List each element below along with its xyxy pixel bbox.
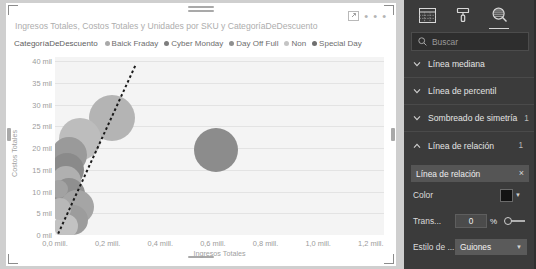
legend-title: CategoríaDeDescuento — [14, 39, 98, 48]
transparency-property-row: Trans... 0 % — [404, 208, 536, 234]
chevron-down-icon[interactable]: ▼ — [516, 244, 522, 250]
y-axis-ticks: 0 mil5 mil10 mil15 mil20 mil25 mil30 mil… — [22, 53, 52, 235]
legend-swatch-icon — [229, 41, 234, 46]
section-linea-de-percentil[interactable]: Línea de percentil — [404, 78, 536, 105]
legend-item-1[interactable]: Cyber Monday — [164, 39, 223, 48]
search-input[interactable]: Buscar — [411, 32, 529, 51]
section-label: Sombreado de simetría — [428, 113, 517, 123]
x-axis-label: Ingresos Totales — [55, 249, 384, 258]
analytics-pane: Buscar Línea mediana Línea de percentil … — [404, 0, 536, 269]
legend-swatch-icon — [312, 41, 317, 46]
legend-label: Special Day — [319, 39, 362, 48]
legend-item-0[interactable]: Baick Fraday — [105, 39, 159, 48]
screen-root: • • • Ingresos Totales, Costos Totales y… — [0, 0, 536, 269]
transparency-slider[interactable] — [503, 215, 525, 227]
more-options-icon[interactable]: • • • — [364, 12, 387, 20]
line-style-value: Guiones — [460, 242, 516, 252]
relation-line-name: Línea de relación — [416, 169, 519, 179]
chart-visual-container[interactable]: • • • Ingresos Totales, Costos Totales y… — [6, 3, 396, 266]
legend-item-3[interactable]: Non — [284, 39, 306, 48]
relation-line-item[interactable]: Línea de relación × — [411, 165, 529, 182]
x-tick-label: 0,8 mill. — [253, 239, 278, 248]
x-tick-label: 1,2 mill. — [358, 239, 383, 248]
chart-legend: CategoríaDeDescuento Baick Fraday Cyber … — [14, 39, 364, 48]
section-label: Línea mediana — [428, 59, 516, 69]
tab-analytics[interactable] — [488, 4, 510, 26]
legend-item-4[interactable]: Special Day — [312, 39, 362, 48]
slider-knob[interactable] — [504, 217, 512, 225]
color-swatch[interactable] — [500, 189, 513, 202]
tab-format[interactable] — [452, 4, 474, 26]
y-tick-label: 30 mil — [32, 100, 52, 109]
legend-item-2[interactable]: Day Off Full — [229, 39, 278, 48]
table-fields-icon — [419, 8, 436, 23]
search-icon — [418, 37, 427, 46]
transparency-label: Trans... — [413, 216, 455, 226]
y-tick-label: 40 mil — [32, 57, 52, 66]
line-style-select[interactable]: Guiones ▼ — [455, 239, 527, 255]
focus-mode-icon[interactable] — [348, 11, 359, 21]
y-tick-label: 5 mil — [36, 209, 52, 218]
legend-label: Cyber Monday — [171, 39, 223, 48]
chevron-down-icon — [413, 87, 421, 95]
page-title: Ingresos Totales, Costos Totales y Unida… — [15, 21, 356, 31]
section-label: Línea de percentil — [428, 86, 516, 96]
section-linea-mediana[interactable]: Línea mediana — [404, 51, 536, 78]
section-sombreado-de-simetria[interactable]: Sombreado de simetría 1 — [404, 105, 536, 132]
legend-swatch-icon — [105, 41, 110, 46]
chevron-down-icon — [413, 60, 421, 68]
y-tick-label: 35 mil — [32, 79, 52, 88]
section-label: Línea de relación — [428, 141, 511, 151]
chevron-down-icon[interactable]: ▼ — [515, 192, 521, 198]
legend-label: Non — [291, 39, 306, 48]
y-tick-label: 25 mil — [32, 122, 52, 131]
percent-unit: % — [490, 217, 497, 226]
close-icon[interactable]: × — [519, 169, 524, 178]
y-tick-label: 10 mil — [32, 187, 52, 196]
legend-label: Day Off Full — [236, 39, 278, 48]
section-linea-de-relacion[interactable]: Línea de relación 1 — [404, 132, 536, 159]
plot-area[interactable] — [55, 57, 384, 235]
x-tick-label: 0,2 mill. — [95, 239, 120, 248]
chevron-up-icon — [413, 142, 421, 150]
chevron-down-icon — [413, 114, 421, 122]
style-label: Estilo de ... — [413, 242, 455, 252]
resize-corner-bottom-left[interactable] — [8, 254, 18, 264]
transparency-value: 0 — [469, 217, 474, 226]
visual-header-actions: • • • — [348, 11, 387, 21]
color-property-row: Color ▼ — [404, 182, 536, 208]
legend-swatch-icon — [284, 41, 289, 46]
plot-wrapper: Costos Totales 0 mil5 mil10 mil15 mil20 … — [14, 53, 388, 253]
transparency-input[interactable]: 0 — [455, 214, 487, 228]
y-axis-label: Costos Totales — [10, 130, 19, 177]
relation-trendline — [55, 57, 384, 235]
y-tick-label: 20 mil — [32, 144, 52, 153]
section-count: 1 — [524, 114, 533, 123]
legend-swatch-icon — [164, 41, 169, 46]
section-count: 1 — [518, 141, 527, 150]
drag-handle-top[interactable] — [188, 6, 214, 14]
x-tick-label: 0,4 mill. — [148, 239, 173, 248]
magnifier-analytics-icon — [491, 7, 508, 23]
resize-handle-right[interactable] — [391, 128, 395, 141]
resize-corner-bottom-right[interactable] — [384, 254, 394, 264]
x-tick-label: 0,6 mill. — [200, 239, 225, 248]
resize-corner-top-left[interactable] — [8, 5, 18, 15]
pane-tab-strip — [404, 0, 536, 30]
paint-roller-icon — [455, 7, 471, 23]
x-tick-label: 1,0 mill. — [305, 239, 330, 248]
y-tick-label: 15 mil — [32, 165, 52, 174]
search-placeholder: Buscar — [432, 37, 458, 47]
x-tick-label: 0,0 mill. — [42, 239, 67, 248]
color-picker[interactable]: ▼ — [500, 189, 521, 202]
style-property-row: Estilo de ... Guiones ▼ — [404, 234, 536, 260]
color-label: Color — [413, 190, 455, 200]
tab-fields[interactable] — [416, 4, 438, 26]
legend-label: Baick Fraday — [112, 39, 159, 48]
